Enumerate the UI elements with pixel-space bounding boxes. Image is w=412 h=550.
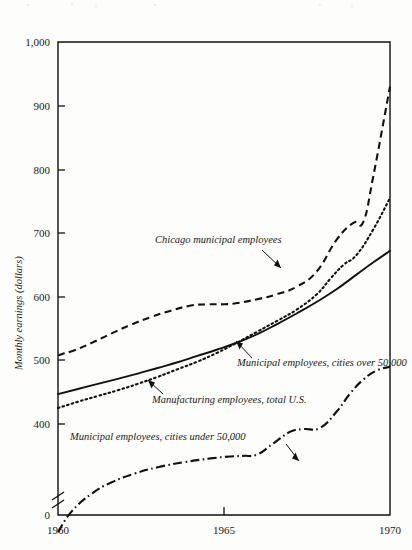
arrowhead-icon bbox=[236, 341, 243, 350]
annotation-label: Manufacturing employees, total U.S. bbox=[151, 394, 307, 405]
series-path-municipal-over-50000 bbox=[58, 198, 390, 408]
annotation-municipal-under-50000: Municipal employees, cities under 50,000 bbox=[69, 431, 299, 461]
y-tick-label: 500 bbox=[34, 354, 51, 366]
y-axis-title: Monthly earnings (dollars) bbox=[13, 256, 25, 371]
annotation-label: Municipal employees, cities over 50,000 bbox=[236, 357, 407, 368]
y-tick-label: 400 bbox=[34, 418, 51, 430]
y-tick-label: 800 bbox=[34, 164, 51, 176]
line-chart-figure: 1,000 900 800 700 600 500 400 0 Monthly … bbox=[0, 0, 412, 550]
plot-frame bbox=[58, 42, 390, 515]
series-path-manufacturing bbox=[58, 251, 390, 394]
annotation-label: Chicago municipal employees bbox=[155, 234, 282, 245]
y-tick-label: 1,000 bbox=[25, 36, 50, 48]
x-tick-label: 1970 bbox=[379, 524, 402, 536]
series-layer bbox=[58, 87, 390, 533]
y-tick-label: 900 bbox=[34, 100, 51, 112]
annotation-chicago: Chicago municipal employees bbox=[155, 234, 282, 268]
arrowhead-icon bbox=[148, 380, 155, 389]
arrowhead-icon bbox=[274, 260, 281, 269]
y-axis-ticks bbox=[58, 106, 65, 424]
x-tick-label: 1965 bbox=[213, 524, 236, 536]
y-tick-label: 0 bbox=[45, 509, 51, 521]
annotation-label: Municipal employees, cities under 50,000 bbox=[69, 431, 246, 442]
x-tick-labels: 1960 1965 1970 bbox=[47, 524, 402, 536]
annotation-manufacturing: Municipal employees, cities over 50,000 bbox=[236, 341, 407, 368]
y-tick-label: 600 bbox=[34, 291, 51, 303]
y-tick-label: 700 bbox=[34, 227, 51, 239]
series-path-chicago bbox=[58, 87, 390, 356]
y-tick-labels: 1,000 900 800 700 600 500 400 0 bbox=[25, 36, 50, 521]
annotation-municipal-over-50000: Manufacturing employees, total U.S. bbox=[148, 380, 307, 405]
